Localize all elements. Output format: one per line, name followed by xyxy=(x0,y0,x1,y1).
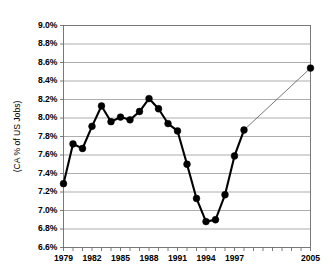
y-axis-tick-label: 8.0% xyxy=(38,112,58,122)
y-axis-tick-label: 9.0% xyxy=(38,20,58,30)
data-point-marker xyxy=(136,108,143,115)
data-point-marker xyxy=(165,120,172,127)
data-point-marker xyxy=(203,218,210,225)
data-point-marker xyxy=(98,103,105,110)
data-point-marker xyxy=(117,114,124,121)
data-point-marker xyxy=(193,195,200,202)
y-axis-tick-label: 7.0% xyxy=(38,205,58,215)
data-point-marker xyxy=(60,180,67,187)
chart-container: 9.0%8.8%8.6%8.4%8.2%8.0%7.8%7.6%7.4%7.2%… xyxy=(0,0,333,280)
y-axis-title: (CA % of US Jobs) xyxy=(12,101,22,173)
data-point-marker xyxy=(241,127,248,134)
data-point-marker xyxy=(79,145,86,152)
data-point-marker xyxy=(174,128,181,135)
y-axis-tick-label: 7.4% xyxy=(38,168,58,178)
data-point-marker xyxy=(222,191,229,198)
y-axis-tick-label: 8.4% xyxy=(38,75,58,85)
y-axis-tick-label: 8.2% xyxy=(38,94,58,104)
y-axis-tick-label: 6.6% xyxy=(38,242,58,252)
line-chart: 9.0%8.8%8.6%8.4%8.2%8.0%7.8%7.6%7.4%7.2%… xyxy=(0,0,333,280)
y-axis-tick-label: 7.2% xyxy=(38,186,58,196)
x-axis-tick-label: 1982 xyxy=(82,253,101,263)
data-point-marker xyxy=(184,161,191,168)
data-point-marker xyxy=(70,141,77,148)
y-axis-tick-label: 7.8% xyxy=(38,131,58,141)
y-axis-tick-label: 7.6% xyxy=(38,149,58,159)
x-axis-tick-label: 1997 xyxy=(225,253,244,263)
data-point-marker xyxy=(108,118,115,125)
data-point-marker xyxy=(307,65,314,72)
x-axis-tick-label: 2005 xyxy=(301,253,320,263)
data-point-marker xyxy=(146,95,153,102)
data-point-marker xyxy=(155,105,162,112)
x-axis-tick-label: 1991 xyxy=(168,253,187,263)
data-point-marker xyxy=(212,216,219,223)
x-axis-tick-label: 1988 xyxy=(139,253,158,263)
x-axis-tick-label: 1994 xyxy=(196,253,215,263)
y-axis-tick-label: 8.8% xyxy=(38,38,58,48)
y-axis-tick-label: 8.6% xyxy=(38,57,58,67)
x-axis-tick-label: 1979 xyxy=(54,253,73,263)
data-point-marker xyxy=(231,153,238,160)
x-axis-tick-label: 1985 xyxy=(111,253,130,263)
data-point-marker xyxy=(89,123,96,130)
data-point-marker xyxy=(127,116,134,123)
y-axis-tick-label: 6.8% xyxy=(38,223,58,233)
